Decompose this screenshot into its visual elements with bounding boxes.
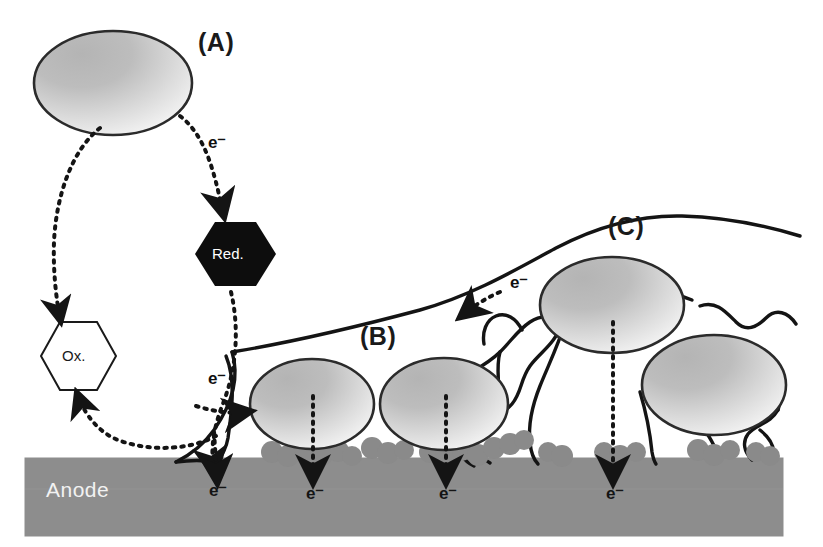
cell-biofilm-b2 — [380, 358, 508, 450]
electron-label-c-nanowire: e⁻ — [510, 272, 528, 293]
panel-label-c: (C) — [608, 212, 644, 241]
bacterial-cells — [34, 31, 786, 450]
panel-label-a: (A) — [198, 28, 234, 57]
arrow-return-to-ox — [78, 396, 216, 448]
electron-label-anode-2: e⁻ — [306, 483, 324, 504]
ox-mediator-label: Ox. — [62, 347, 85, 364]
anode-label: Anode — [46, 478, 109, 502]
electron-label-a-shuttle: e⁻ — [208, 132, 226, 153]
arrow-nanowire-electron — [464, 292, 500, 314]
red-mediator-label: Red. — [212, 245, 244, 262]
electron-label-anode-3: e⁻ — [439, 483, 457, 504]
electron-label-anode-1: e⁻ — [209, 480, 227, 501]
diagram-vector-layer — [0, 0, 823, 547]
cell-planktonic-a — [34, 31, 192, 135]
figure-canvas: (A) (B) (C) Red. Ox. Anode e⁻ e⁻ e⁻ e⁻ e… — [0, 0, 823, 547]
panel-label-b: (B) — [360, 322, 396, 351]
arrow-cell-to-red — [180, 116, 223, 212]
anode-electrode — [25, 458, 783, 536]
arrow-ox-to-cell — [54, 128, 100, 318]
electron-label-anode-4: e⁻ — [606, 483, 624, 504]
cell-nanowire-c-lower — [642, 335, 786, 435]
electron-label-b-approach: e⁻ — [208, 368, 226, 389]
